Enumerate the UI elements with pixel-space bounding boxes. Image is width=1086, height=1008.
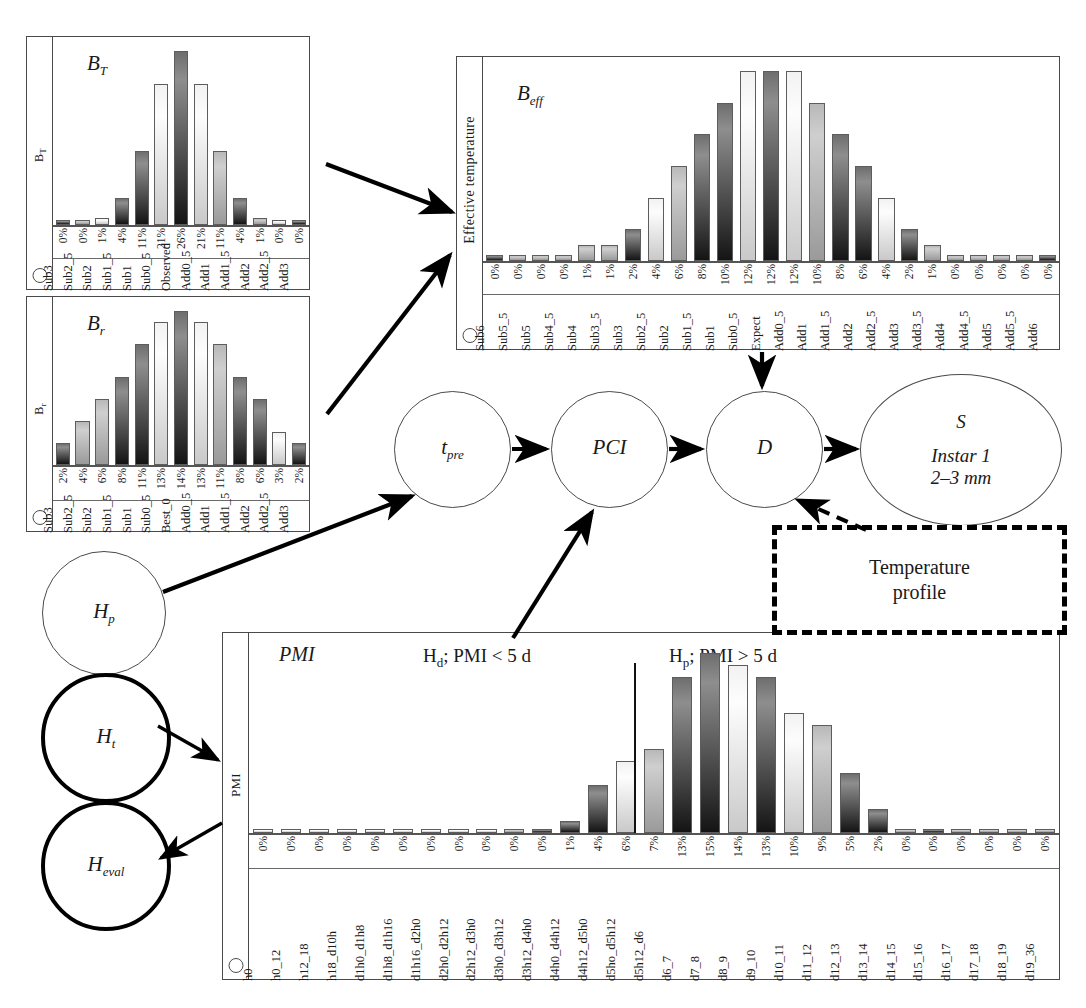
bar-column	[73, 51, 93, 225]
category-label: Add5	[979, 323, 994, 351]
bar-column	[920, 653, 948, 833]
value-label: 8%	[116, 468, 128, 483]
bar-column	[53, 51, 73, 225]
bar-column	[171, 311, 191, 465]
value-label: 6%	[96, 468, 108, 483]
value-label-cell: 15%	[696, 836, 724, 868]
bar-column	[1013, 71, 1036, 261]
arrow-bt-to-beff	[326, 164, 452, 212]
value-label-cell: 14%	[724, 836, 752, 868]
temperature-profile-box[interactable]: Temperature profile	[772, 525, 1067, 635]
value-label: 0%	[1042, 264, 1054, 279]
bar	[75, 421, 89, 465]
category-label: Sub2_5	[633, 313, 648, 351]
bar	[901, 229, 918, 261]
bar-column	[528, 653, 556, 833]
value-label-cell: 0%	[528, 836, 556, 868]
category-label: Sub1_5	[99, 253, 114, 291]
value-label-cell: 4%	[584, 836, 612, 868]
arrow-br-to-beff	[327, 255, 450, 414]
bar	[840, 773, 860, 833]
node-hp[interactable]: Hp	[42, 551, 166, 675]
bar-column	[151, 311, 171, 465]
value-label: 0%	[480, 836, 492, 851]
category-label: d17_18	[967, 944, 982, 982]
value-label-cell: 13%	[668, 836, 696, 868]
bar-column	[191, 51, 211, 225]
value-label: 3%	[273, 468, 285, 483]
bt-yaxis-label-column: BT	[27, 37, 53, 289]
category-label: Sub3	[40, 507, 55, 533]
bar-column	[151, 51, 171, 225]
bar-column	[584, 653, 612, 833]
bar-column	[892, 653, 920, 833]
node-heval[interactable]: Heval	[41, 801, 171, 931]
chart-panel-bt: BT BT 0%0%1%4%11%21%26%21%11%4%1%0%0% Su…	[26, 36, 310, 290]
category-label: h12_18	[296, 944, 311, 982]
node-d[interactable]: D	[706, 391, 823, 508]
value-label-cell: 0%	[500, 836, 528, 868]
node-stage-instar[interactable]: S Instar 1 2–3 mm	[860, 374, 1062, 526]
category-label-cell: Add3	[289, 500, 309, 533]
value-label: 21%	[195, 228, 207, 249]
beff-value-labels: 0%0%0%0%1%1%2%4%6%8%10%12%12%12%10%8%6%4…	[483, 264, 1059, 294]
category-label: d3h12_d4h0	[520, 919, 535, 982]
bar-column	[696, 653, 724, 833]
bar-column	[668, 653, 696, 833]
value-label-cell: 0%	[920, 836, 948, 868]
br-bars	[53, 311, 309, 465]
category-label: d4h0_d4h12	[548, 919, 563, 982]
br-axis-line	[53, 465, 309, 467]
bar-column	[836, 653, 864, 833]
category-label: Add4_5	[956, 311, 971, 351]
value-label-cell: 8%	[690, 264, 713, 294]
pmi-axis-line	[249, 833, 1059, 835]
bar-column	[621, 71, 644, 261]
node-ht[interactable]: Ht	[41, 673, 171, 803]
value-label: 0%	[257, 836, 269, 851]
bar	[233, 198, 247, 225]
bt-bars	[53, 51, 309, 225]
node-t-pre[interactable]: tpre	[394, 391, 511, 508]
node-stage-line2: 2–3 mm	[931, 467, 992, 489]
node-pci[interactable]: PCI	[551, 391, 668, 508]
value-label-cell: 2%	[621, 264, 644, 294]
node-pci-label: PCI	[593, 435, 627, 463]
temperature-profile-line2: profile	[869, 580, 970, 605]
category-label: Expect	[749, 316, 764, 351]
value-label-cell: 0%	[289, 228, 309, 258]
category-label: Add3	[277, 505, 292, 533]
value-label-cell: 0%	[552, 264, 575, 294]
category-label: Add3	[277, 263, 292, 291]
bar-column	[289, 51, 309, 225]
chart-panel-beff: Effective temperature Beff 0%0%0%0%1%1%2…	[456, 56, 1060, 350]
value-label-cell: 10%	[780, 836, 808, 868]
bar-column	[944, 71, 967, 261]
bar	[174, 311, 188, 465]
beff-yaxis-label-column: Effective temperature	[457, 57, 483, 349]
category-label: Sub6	[472, 325, 487, 351]
bar-column	[644, 71, 667, 261]
value-label: 0%	[900, 836, 912, 851]
bar-column	[389, 653, 417, 833]
category-label-cell: d19_36	[1031, 868, 1059, 981]
bar-column	[598, 71, 621, 261]
category-label: d10_11	[771, 944, 786, 981]
category-label: Sub3	[610, 325, 625, 351]
value-label-cell: 0%	[361, 836, 389, 868]
value-label-cell: 0%	[944, 264, 967, 294]
bar	[233, 377, 247, 465]
pmi-category-labels: h0h0_12h12_18h18_d10hd1h0_d1h8d1h8_d1h16…	[249, 868, 1059, 981]
bar	[812, 725, 832, 833]
bar-column	[211, 311, 231, 465]
bar-column	[1031, 653, 1059, 833]
category-label: Sub2	[80, 265, 95, 291]
value-label: 0%	[341, 836, 353, 851]
value-label: 6%	[857, 264, 869, 279]
value-label: 2%	[872, 836, 884, 851]
bar-column	[132, 311, 152, 465]
bar-column	[112, 51, 132, 225]
bar-column	[806, 71, 829, 261]
value-label: 1%	[604, 264, 616, 279]
bar-column	[250, 311, 270, 465]
